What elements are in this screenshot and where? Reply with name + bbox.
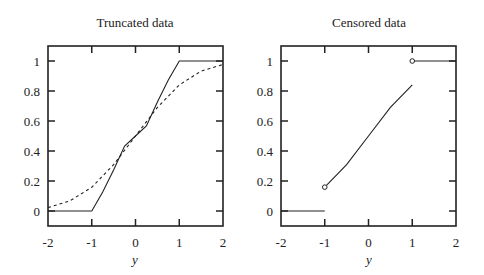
open-circle-marker [410, 59, 415, 64]
panel-title: Censored data [332, 15, 406, 30]
y-tick-label: 0 [34, 204, 41, 219]
figure: Truncated data y -2-101200.20.40.60.81 C… [0, 0, 484, 275]
y-tick-label: 0.4 [24, 144, 41, 159]
x-tick-label: -1 [86, 235, 97, 250]
x-tick-label: -2 [276, 235, 287, 250]
y-tick-label: 0.6 [257, 114, 274, 129]
solid-series-line [325, 85, 413, 187]
y-tick-label: 0.8 [24, 84, 40, 99]
x-tick-label: -1 [319, 235, 330, 250]
y-tick-label: 1 [34, 54, 41, 69]
x-tick-label: -2 [43, 235, 54, 250]
x-tick-label: 2 [453, 235, 460, 250]
y-tick-label: 0.6 [24, 114, 41, 129]
x-tick-label: 0 [132, 235, 139, 250]
dashed-series-line [48, 65, 223, 208]
censored-data-panel: Censored data y -2-101200.20.40.60.81 [257, 15, 460, 267]
x-tick-label: 2 [220, 235, 227, 250]
x-tick-label: 1 [409, 235, 416, 250]
y-tick-label: 0.8 [257, 84, 273, 99]
x-tick-label: 0 [365, 235, 372, 250]
x-tick-label: 1 [176, 235, 183, 250]
y-tick-label: 0 [267, 204, 274, 219]
y-tick-label: 0.4 [257, 144, 274, 159]
x-axis-label: y [364, 252, 372, 267]
y-tick-label: 1 [267, 54, 274, 69]
x-axis-label: y [130, 252, 138, 267]
y-tick-label: 0.2 [24, 174, 40, 189]
open-circle-marker [322, 185, 327, 190]
panel-title: Truncated data [96, 15, 173, 30]
truncated-data-panel: Truncated data y -2-101200.20.40.60.81 [24, 15, 227, 267]
y-tick-label: 0.2 [257, 174, 273, 189]
